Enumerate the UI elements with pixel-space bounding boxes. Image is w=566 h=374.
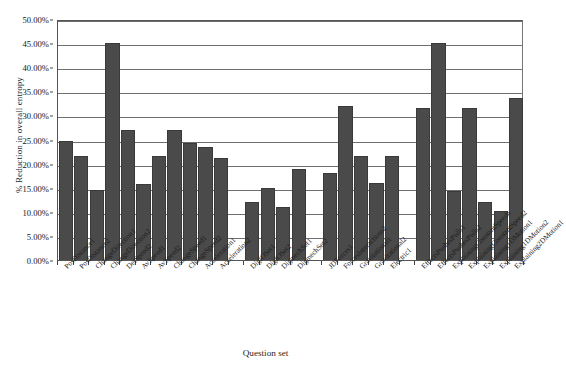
y-axis-tick: [50, 236, 53, 237]
x-axis-title: Question set: [0, 348, 531, 358]
bar: [416, 108, 430, 260]
y-axis-tick-label: 10.00%: [23, 208, 50, 217]
bar: [105, 43, 119, 260]
y-axis-tick: [50, 116, 53, 117]
y-axis-tick: [50, 261, 53, 262]
bar: [245, 202, 259, 260]
plot-area: [57, 20, 523, 261]
bar: [167, 130, 181, 260]
y-axis-tick-label: 45.00%: [23, 40, 50, 49]
y-axis-tick-label: 50.00%: [23, 16, 50, 25]
y-axis-tick-label: 40.00%: [23, 64, 50, 73]
y-axis-tick: [50, 212, 53, 213]
y-axis-tick: [50, 44, 53, 45]
bar: [431, 43, 445, 260]
x-axis-tick-labels: PosDistance1PosDistance2ChangeDirection1…: [57, 265, 523, 345]
bars-layer: [58, 21, 522, 260]
y-axis-tick: [50, 140, 53, 141]
y-axis-tick-labels: 0.00%5.00%10.00%15.00%20.00%25.00%30.00%…: [0, 20, 53, 261]
y-axis-tick-label: 20.00%: [23, 160, 50, 169]
y-axis-tick: [50, 164, 53, 165]
y-axis-tick: [50, 188, 53, 189]
y-axis-tick-label: 15.00%: [23, 184, 50, 193]
y-axis-tick: [50, 92, 53, 93]
bar: [338, 106, 352, 260]
y-axis-tick-label: 30.00%: [23, 112, 50, 121]
y-axis-tick: [50, 68, 53, 69]
y-axis-tick-label: 35.00%: [23, 88, 50, 97]
y-axis-tick-label: 25.00%: [23, 136, 50, 145]
y-axis-tick-label: 5.00%: [27, 232, 49, 241]
bar: [59, 141, 73, 260]
y-axis-tick-label: 0.00%: [27, 257, 49, 266]
y-axis-tick: [50, 20, 53, 21]
